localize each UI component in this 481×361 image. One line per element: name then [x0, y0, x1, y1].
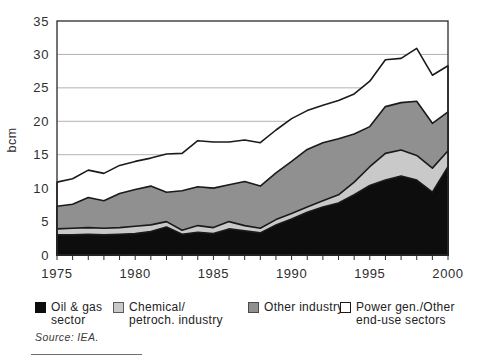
- legend-item-chemical: Chemical/ petroch. industry: [113, 301, 223, 326]
- svg-text:25: 25: [33, 80, 49, 95]
- legend-item-other-industry: Other industry: [248, 301, 344, 314]
- stacked-area-chart: 05101520253035197519801985199019952000bc…: [0, 0, 481, 293]
- bottom-rule-divider: [31, 354, 142, 355]
- power-gen-swatch-icon: [340, 302, 351, 313]
- legend-label-other-industry: Other industry: [264, 301, 344, 314]
- svg-text:2000: 2000: [432, 266, 463, 281]
- svg-text:1990: 1990: [276, 266, 307, 281]
- source-note: Source: IEA.: [35, 331, 99, 343]
- legend-label-oil-gas: Oil & gas sector: [51, 301, 102, 326]
- other-industry-swatch-icon: [248, 302, 259, 313]
- legend-item-oil-gas: Oil & gas sector: [35, 301, 102, 326]
- legend-label-line: petroch. industry: [129, 313, 223, 327]
- svg-text:30: 30: [33, 47, 49, 62]
- figure-gas-consumption-chart: 05101520253035197519801985199019952000bc…: [0, 0, 481, 361]
- legend-label-line: end-use sectors: [356, 313, 446, 327]
- svg-text:1975: 1975: [41, 266, 72, 281]
- svg-text:10: 10: [33, 181, 49, 196]
- svg-text:1980: 1980: [120, 266, 151, 281]
- legend-label-line: Other industry: [264, 300, 344, 314]
- legend-label-power-gen: Power gen./Other end-use sectors: [356, 301, 455, 326]
- chemical-swatch-icon: [113, 302, 124, 313]
- svg-text:0: 0: [41, 248, 49, 263]
- svg-text:15: 15: [33, 147, 49, 162]
- svg-text:bcm: bcm: [5, 127, 19, 152]
- svg-text:20: 20: [33, 114, 49, 129]
- chart-legend: Oil & gas sector Chemical/ petroch. indu…: [0, 299, 481, 333]
- legend-item-power-gen: Power gen./Other end-use sectors: [340, 301, 455, 326]
- svg-text:1985: 1985: [198, 266, 229, 281]
- svg-text:35: 35: [33, 14, 49, 29]
- svg-text:5: 5: [41, 214, 49, 229]
- legend-label-chemical: Chemical/ petroch. industry: [129, 301, 223, 326]
- svg-text:1995: 1995: [354, 266, 385, 281]
- legend-label-line: sector: [51, 313, 85, 327]
- oil-gas-swatch-icon: [35, 302, 46, 313]
